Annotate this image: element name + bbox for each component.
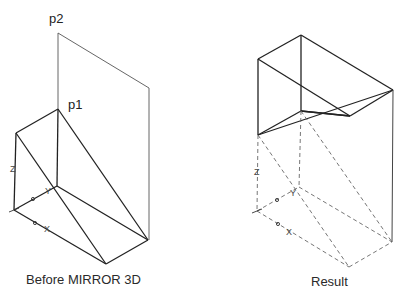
mirror-plane (58, 33, 149, 240)
caption-result: Result (311, 274, 348, 289)
ucs-icon-result (252, 198, 280, 225)
point-label-p1: p1 (68, 97, 82, 112)
wedge-original-dashed (257, 111, 392, 267)
plane-edge-result (392, 90, 393, 242)
mirror-3d-diagram (0, 0, 401, 298)
caption-before: Before MIRROR 3D (26, 272, 141, 287)
wedge-before (14, 109, 148, 264)
point-label-p2: p2 (49, 11, 63, 26)
axis-label-z-result: Z (254, 167, 260, 177)
axis-label-z-before: Z (10, 164, 16, 174)
axis-label-x-before: X (44, 224, 50, 234)
wedge-result (258, 35, 393, 135)
axis-label-y-before: Y (45, 186, 51, 196)
axis-label-y-result: Y (290, 188, 296, 198)
axis-label-x-result: X (286, 227, 292, 237)
